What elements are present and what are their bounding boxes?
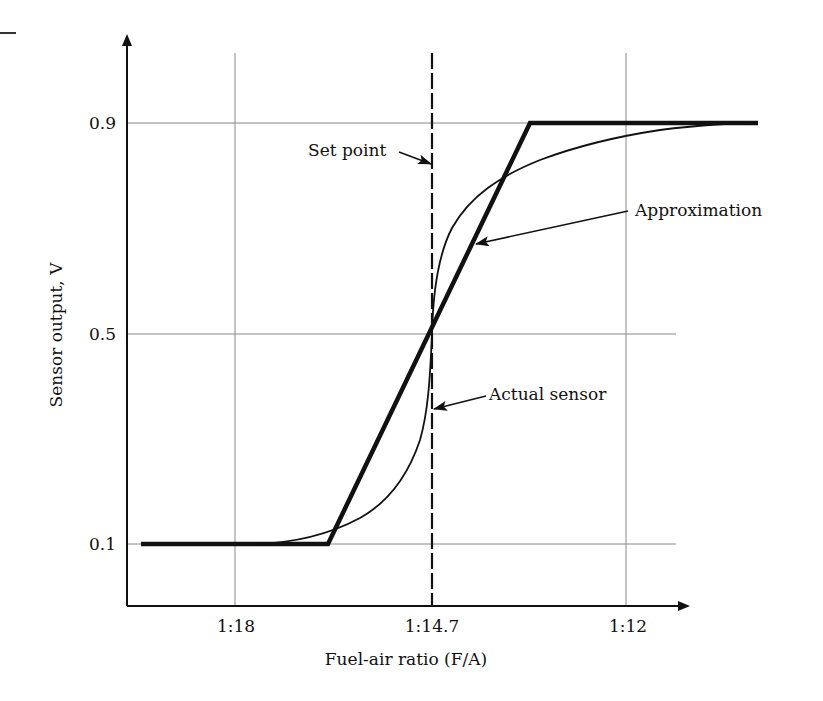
approximation-label: Approximation (634, 200, 762, 220)
x-tick-1-18: 1:18 (217, 616, 255, 636)
y-tick-0.1: 0.1 (89, 534, 116, 554)
set-point-arrow (399, 152, 431, 164)
x-axis-title: Fuel-air ratio (F/A) (325, 649, 487, 669)
x-tick-1-14.7: 1:14.7 (405, 616, 459, 636)
sensor-output-chart: 0.9 0.5 0.1 1:18 1:14.7 1:12 Fuel-air ra… (0, 0, 823, 701)
set-point-label: Set point (308, 140, 386, 160)
actual-sensor-label: Actual sensor (488, 384, 607, 404)
y-tick-0.9: 0.9 (89, 113, 116, 133)
y-axis-title: Sensor output, V (46, 262, 66, 408)
gridlines (127, 53, 676, 606)
actual-sensor-arrow (434, 396, 486, 409)
approximation-arrow (476, 211, 628, 244)
x-tick-1-12: 1:12 (609, 616, 647, 636)
y-tick-0.5: 0.5 (89, 324, 116, 344)
